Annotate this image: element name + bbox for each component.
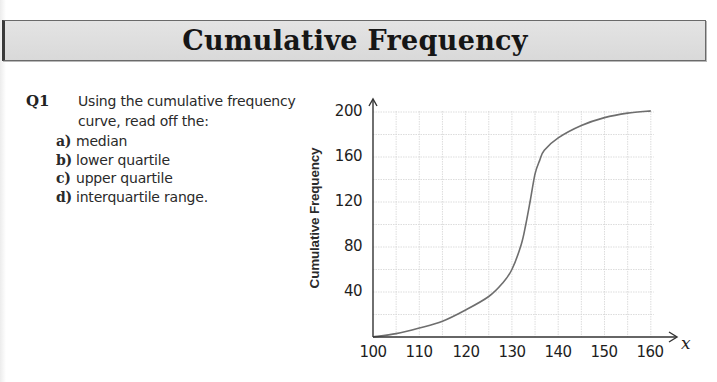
y-tick-label: 120: [320, 192, 362, 210]
x-tick-label: 100: [353, 343, 393, 361]
x-tick-label: 150: [584, 343, 624, 361]
y-axis-title: Cumulative Frequency: [305, 143, 325, 293]
x-tick-label: 120: [446, 343, 486, 361]
y-tick-label: 80: [320, 237, 362, 255]
chart-plot-area: [0, 0, 717, 382]
x-tick-label: 160: [630, 343, 670, 361]
y-tick-label: 40: [320, 282, 362, 300]
y-tick-label: 160: [320, 147, 362, 165]
cumulative-frequency-chart: Cumulative Frequency 200 160 120 80 40 1…: [0, 0, 717, 382]
x-tick-label: 110: [399, 343, 439, 361]
chart-grid: [373, 111, 654, 337]
x-axis-variable-label: x: [681, 333, 691, 353]
x-axis: [373, 332, 677, 342]
x-tick-label: 130: [492, 343, 532, 361]
y-tick-label: 200: [320, 102, 362, 120]
x-tick-label: 140: [538, 343, 578, 361]
